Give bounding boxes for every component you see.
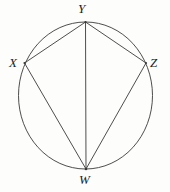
segment-yw — [86, 22, 87, 169]
segment-xy — [25, 22, 86, 63]
geometry-figure: Y X Z W — [0, 0, 170, 192]
vertex-point-y — [84, 21, 86, 23]
vertex-label-z: Z — [150, 56, 157, 69]
segment-zw — [86, 63, 146, 169]
vertex-label-x: X — [9, 56, 17, 69]
vertex-point-w — [85, 168, 88, 171]
geometry-canvas — [0, 0, 170, 192]
vertex-label-y: Y — [78, 2, 85, 15]
vertex-label-w: W — [79, 173, 90, 186]
vertex-point-z — [145, 62, 147, 64]
segment-yz — [86, 22, 147, 63]
segment-xw — [25, 63, 87, 169]
vertex-point-x — [23, 62, 25, 64]
